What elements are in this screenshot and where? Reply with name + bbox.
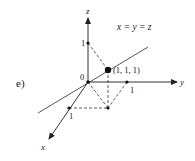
y-tick-label: 1 xyxy=(130,85,134,95)
x-tick-label: 1 xyxy=(69,111,73,121)
x-axis-label: x xyxy=(40,142,45,152)
3d-coordinate-diagram: e) x = y = z z y x 1 1 1 0 (1, 1, 1) xyxy=(0,0,195,161)
dashed-guides xyxy=(69,43,127,108)
line-x-eq-y-eq-z xyxy=(38,47,148,113)
z-tick-label: 1 xyxy=(81,38,85,48)
origin-label: 0 xyxy=(80,72,84,82)
y-axis-label: y xyxy=(179,77,184,87)
z-axis-label: z xyxy=(85,6,90,16)
z-tick-point xyxy=(86,41,89,44)
point-1-1-1 xyxy=(105,67,111,73)
xy-projection-point xyxy=(106,106,109,109)
origin-point xyxy=(86,80,90,84)
x-tick-point xyxy=(67,106,70,109)
point-label: (1, 1, 1) xyxy=(113,65,140,75)
equation-label: x = y = z xyxy=(116,22,152,32)
part-label: e) xyxy=(16,77,25,90)
y-tick-point xyxy=(125,80,128,83)
